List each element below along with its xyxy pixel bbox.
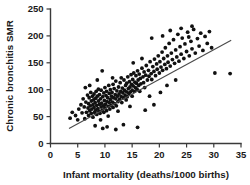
data-point <box>111 82 115 86</box>
data-point <box>122 78 126 82</box>
data-point <box>192 28 196 32</box>
data-point <box>81 97 85 101</box>
data-point <box>142 81 146 85</box>
data-point <box>201 49 205 53</box>
data-point <box>77 107 81 111</box>
data-point <box>150 78 154 82</box>
y-tick-label: 100 <box>28 84 44 95</box>
data-point <box>93 124 97 128</box>
data-point <box>179 52 183 56</box>
chart-figure: Chronic bronchitis SMR Infant mortality … <box>0 0 250 185</box>
data-point <box>85 110 89 114</box>
data-point <box>152 70 156 74</box>
y-axis-title: Chronic bronchitis SMR <box>4 20 15 132</box>
data-point <box>147 68 151 72</box>
data-point <box>165 83 169 87</box>
data-point <box>140 57 144 61</box>
data-point <box>163 63 167 67</box>
y-axis-ticks: 050100150200250 <box>28 3 51 149</box>
data-point <box>172 38 176 42</box>
data-point <box>157 71 161 75</box>
data-point <box>161 68 165 72</box>
data-point <box>213 71 217 75</box>
data-point <box>168 64 172 68</box>
data-point <box>189 39 193 43</box>
data-point <box>174 78 178 82</box>
x-tick-label: 5 <box>75 149 81 160</box>
data-point <box>174 48 178 52</box>
y-tick-label: 200 <box>28 30 44 41</box>
data-point <box>199 31 203 35</box>
x-axis-title-group: Infant mortality (deaths/1000 births) <box>63 169 229 180</box>
data-point <box>169 51 173 55</box>
data-point <box>155 67 159 71</box>
data-point <box>114 128 118 132</box>
data-point <box>187 35 191 39</box>
data-point <box>128 104 132 108</box>
data-point <box>103 86 107 90</box>
data-point <box>140 66 144 70</box>
data-point <box>161 34 165 38</box>
data-point <box>148 94 152 98</box>
data-point <box>144 64 148 68</box>
data-point <box>176 32 180 36</box>
data-point <box>228 72 232 76</box>
data-point <box>114 79 118 83</box>
data-point <box>177 59 181 63</box>
data-point <box>95 78 99 82</box>
data-point <box>80 111 84 115</box>
data-point <box>187 54 191 58</box>
data-point <box>122 123 126 127</box>
data-point <box>88 83 92 87</box>
y-tick-label: 250 <box>28 3 44 14</box>
data-point <box>190 24 194 28</box>
data-point <box>190 47 194 51</box>
data-point <box>107 83 111 87</box>
data-point <box>185 50 189 54</box>
data-point <box>110 90 114 94</box>
data-point <box>166 54 170 58</box>
data-point <box>175 55 179 59</box>
data-point <box>173 61 177 65</box>
data-point <box>136 69 140 73</box>
scatter-plot: Chronic bronchitis SMR Infant mortality … <box>0 0 250 185</box>
data-point <box>196 37 200 41</box>
data-point <box>159 90 163 94</box>
data-point <box>205 42 209 46</box>
data-point <box>162 57 166 61</box>
data-point <box>82 105 86 109</box>
data-point <box>114 104 118 108</box>
data-point <box>148 60 152 64</box>
data-point <box>111 76 115 80</box>
data-point <box>210 46 214 50</box>
y-tick-label: 150 <box>28 57 44 68</box>
data-point <box>163 46 167 50</box>
data-point <box>167 42 171 46</box>
data-point <box>180 36 184 40</box>
y-tick-label: 50 <box>33 111 44 122</box>
y-axis-title-group: Chronic bronchitis SMR <box>4 20 15 132</box>
data-point <box>182 57 186 61</box>
data-point <box>99 118 103 122</box>
data-point <box>108 107 112 111</box>
data-point <box>145 78 149 82</box>
x-tick-label: 15 <box>127 149 138 160</box>
data-point <box>100 69 104 73</box>
data-point <box>126 75 130 79</box>
data-point <box>134 74 138 78</box>
data-point <box>179 26 183 30</box>
data-point <box>166 60 170 64</box>
data-point <box>208 30 212 34</box>
data-point <box>105 125 109 129</box>
data-point <box>101 127 105 131</box>
x-tick-label: 10 <box>100 149 111 160</box>
data-point <box>68 116 72 120</box>
data-point <box>118 81 122 85</box>
data-point <box>183 42 187 46</box>
data-point <box>117 85 121 89</box>
x-tick-label: 20 <box>154 149 165 160</box>
data-point <box>153 57 157 61</box>
data-point <box>193 51 197 55</box>
data-point <box>79 103 83 107</box>
data-point <box>101 95 105 99</box>
